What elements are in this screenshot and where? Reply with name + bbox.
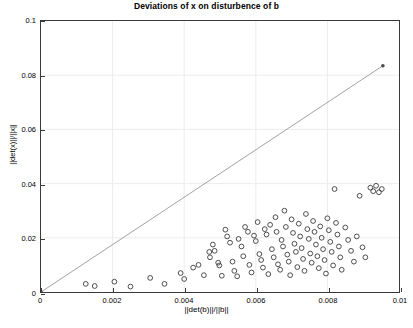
x-tick-mark bbox=[401, 288, 402, 292]
scatter-series bbox=[41, 21, 399, 292]
x-tick-label: 0.002 bbox=[103, 296, 122, 305]
x-tick-mark bbox=[185, 288, 186, 292]
x-tick-label: 0 bbox=[38, 296, 42, 305]
x-tick-label: 0.006 bbox=[247, 296, 266, 305]
y-tick-mark bbox=[41, 21, 45, 22]
y-tick-label: 0.04 bbox=[21, 179, 36, 188]
x-tick-mark bbox=[257, 288, 258, 292]
figure-container: Deviations of x on disturbence of b ||de… bbox=[0, 0, 413, 328]
x-tick-mark bbox=[329, 288, 330, 292]
y-tick-mark bbox=[41, 239, 45, 240]
x-tick-label: 0.004 bbox=[175, 296, 194, 305]
x-tick-label: 0.01 bbox=[393, 296, 408, 305]
y-tick-label: 0.1 bbox=[26, 16, 36, 25]
y-tick-label: 0.02 bbox=[21, 234, 36, 243]
y-tick-label: 0 bbox=[32, 289, 36, 298]
plot-area bbox=[40, 20, 400, 293]
x-tick-label: 0.008 bbox=[319, 296, 338, 305]
y-tick-label: 0.06 bbox=[21, 125, 36, 134]
x-tick-mark bbox=[113, 288, 114, 292]
y-tick-label: 0.08 bbox=[21, 70, 36, 79]
y-tick-mark bbox=[41, 294, 45, 295]
x-tick-mark bbox=[41, 288, 42, 292]
y-tick-mark bbox=[41, 76, 45, 77]
x-axis-label: ||det(b)||/||b|| bbox=[0, 305, 413, 314]
chart-title: Deviations of x on disturbence of b bbox=[0, 1, 413, 11]
y-tick-mark bbox=[41, 130, 45, 131]
y-tick-mark bbox=[41, 185, 45, 186]
y-axis-label: ||det(x)||/||x|| bbox=[8, 97, 17, 193]
